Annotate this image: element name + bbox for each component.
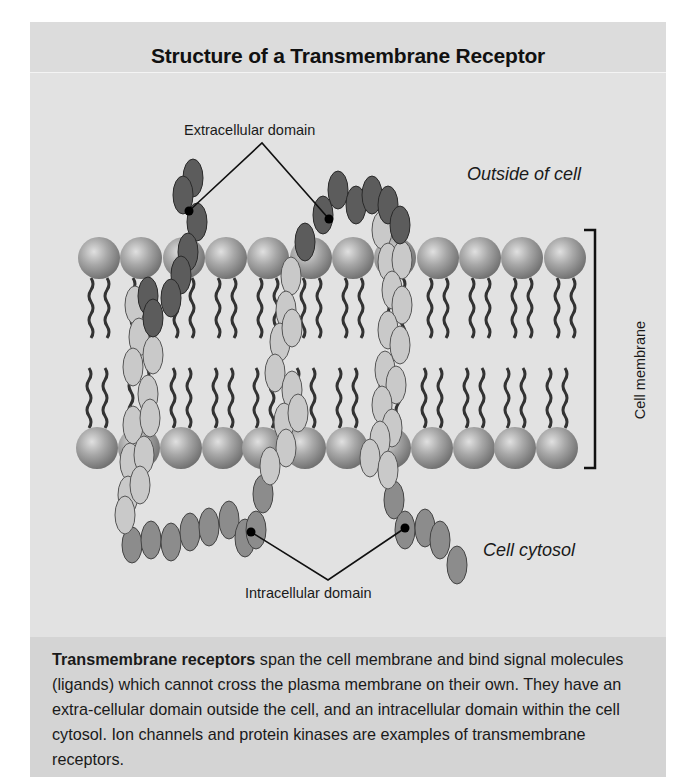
upper-lipid-heads <box>78 237 586 279</box>
intracellular-label: Intracellular domain <box>245 585 372 601</box>
outside-of-cell-label: Outside of cell <box>467 164 581 185</box>
intracellular-domain <box>122 475 467 584</box>
cytosol-label: Cell cytosol <box>483 540 575 561</box>
extracellular-label: Extracellular domain <box>184 122 315 138</box>
membrane-bracket <box>584 230 595 468</box>
membrane-label: Cell membrane <box>632 320 648 420</box>
caption-bold-lead: Transmembrane receptors <box>52 650 255 668</box>
figure-panel: Structure of a Transmembrane Receptor <box>30 22 666 777</box>
caption: Transmembrane receptors span the cell me… <box>52 647 652 772</box>
caption-area: Transmembrane receptors span the cell me… <box>30 637 666 777</box>
